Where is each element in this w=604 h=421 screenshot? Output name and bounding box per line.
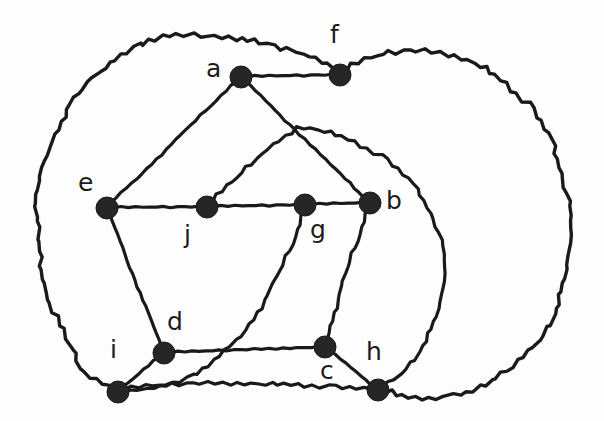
graph-vertex-d xyxy=(153,342,175,364)
graph-edge-f-i xyxy=(35,33,340,392)
graph-edge-i-h xyxy=(118,381,378,392)
graph-vertex-a xyxy=(230,66,252,88)
graph-vertex-e xyxy=(96,197,118,219)
graph-vertex-f xyxy=(329,64,351,86)
graph-edge-e-d xyxy=(107,208,164,353)
vertex-label-b: b xyxy=(386,188,402,213)
vertex-label-d: d xyxy=(167,309,183,334)
vertex-dots xyxy=(96,64,389,403)
vertex-label-g: g xyxy=(310,217,326,242)
graph-vertex-h xyxy=(367,379,389,401)
vertex-label-j: j xyxy=(184,222,191,247)
graph-figure: afejgbdich xyxy=(0,0,604,421)
graph-edge-d-c xyxy=(164,346,325,353)
graph-edge-b-c xyxy=(325,203,370,347)
vertex-label-e: e xyxy=(78,170,93,195)
graph-edge-j-g xyxy=(207,204,305,207)
graph-vertex-g xyxy=(294,194,316,216)
graph-edge-e-j xyxy=(107,206,207,208)
graph-edge-g-i xyxy=(118,205,305,392)
vertex-label-h: h xyxy=(366,339,382,364)
vertex-label-c: c xyxy=(320,358,334,383)
graph-vertex-j xyxy=(196,196,218,218)
graph-vertex-b xyxy=(359,192,381,214)
graph-edge-a-f xyxy=(241,74,340,77)
vertex-label-i: i xyxy=(110,337,117,362)
graph-vertex-c xyxy=(314,336,336,358)
graph-vertex-i xyxy=(107,381,129,403)
vertex-label-f: f xyxy=(330,22,339,47)
graph-canvas xyxy=(0,0,604,421)
graph-edge-a-e xyxy=(107,77,241,208)
vertex-label-a: a xyxy=(206,56,221,81)
